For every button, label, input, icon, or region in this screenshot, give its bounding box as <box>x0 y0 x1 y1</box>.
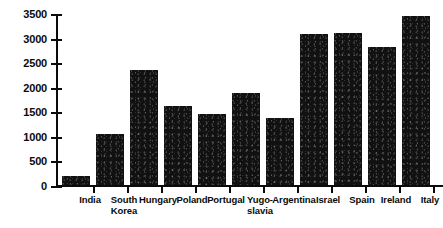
x-axis-label-italy: Italy <box>402 194 443 205</box>
x-axis-tick-mark <box>433 187 435 193</box>
x-axis-tick-mark <box>399 187 401 193</box>
bar-spain[interactable] <box>334 33 362 187</box>
x-axis-tick-mark <box>297 187 299 193</box>
bar-south-korea[interactable] <box>96 134 124 187</box>
x-axis-label-line: Italy <box>421 194 440 205</box>
x-axis-tick-mark <box>229 187 231 193</box>
bar-chart: 3500 3000 2500 2000 1500 1000 500 0 <box>0 0 443 228</box>
plot-area <box>58 15 443 187</box>
x-axis-labels: India South Korea Hungary Poland Portuga… <box>0 194 443 228</box>
y-axis-tick-label: 1500 <box>23 106 47 118</box>
y-axis-tick-label: 500 <box>29 155 47 167</box>
bar-poland[interactable] <box>164 106 192 187</box>
x-axis-ticks <box>0 187 443 193</box>
bar-israel[interactable] <box>300 34 328 187</box>
y-axis-tick-label: 2000 <box>23 82 47 94</box>
x-axis-tick-mark <box>195 187 197 193</box>
bar-portugal[interactable] <box>198 114 226 187</box>
x-axis-label-line: Korea <box>96 205 152 216</box>
x-axis-tick-mark <box>263 187 265 193</box>
x-axis-tick-mark <box>93 187 95 193</box>
y-axis-tick-label: 2500 <box>23 57 47 69</box>
y-axis-tick-label: 3000 <box>23 33 47 45</box>
bar-yugoslavia[interactable] <box>232 93 260 187</box>
x-axis-tick-mark <box>161 187 163 193</box>
bar-ireland[interactable] <box>368 47 396 187</box>
bar-italy[interactable] <box>402 16 430 187</box>
x-axis-tick-mark <box>331 187 333 193</box>
x-axis-tick-mark <box>127 187 129 193</box>
bar-hungary[interactable] <box>130 70 158 187</box>
y-axis-tick-label: 1000 <box>23 131 47 143</box>
x-axis-tick-mark <box>365 187 367 193</box>
x-axis-label-line: slavia <box>232 205 288 216</box>
bar-argentina[interactable] <box>266 118 294 187</box>
y-axis-tick-label: 3500 <box>23 8 47 20</box>
